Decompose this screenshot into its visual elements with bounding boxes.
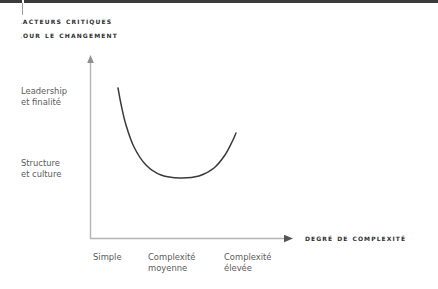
x-axis-tick-label-moyenne-line-2: moyenne bbox=[148, 263, 196, 274]
x-axis-tick-label-moyenne: Complexité moyenne bbox=[148, 252, 196, 275]
y-axis-label-structure-line-2: et culture bbox=[21, 169, 61, 180]
x-axis-arrowhead-icon bbox=[284, 235, 293, 242]
x-axis-tick-label-simple-line-1: Simple bbox=[93, 252, 122, 263]
x-axis-tick-label-simple: Simple bbox=[93, 252, 122, 263]
y-axis-label-structure-line-1: Structure bbox=[21, 158, 61, 169]
y-axis-label-structure: Structure et culture bbox=[21, 158, 61, 181]
y-axis-label-leadership-line-2: et finalité bbox=[21, 97, 67, 108]
figure-facteurs-critiques: Facteurs critiques pour le changement Le… bbox=[0, 0, 438, 289]
x-axis-tick-label-moyenne-line-1: Complexité bbox=[148, 252, 196, 263]
y-axis-arrowhead-icon bbox=[87, 55, 94, 63]
x-axis-title: Degré de complexité bbox=[305, 233, 406, 243]
plot-canvas bbox=[0, 0, 438, 289]
y-axis-label-leadership: Leadership et finalité bbox=[21, 86, 67, 109]
x-axis-tick-label-elevee: Complexité élevée bbox=[224, 252, 272, 275]
x-axis-tick-label-elevee-line-1: Complexité bbox=[224, 252, 272, 263]
y-axis-label-leadership-line-1: Leadership bbox=[21, 86, 67, 97]
complexity-curve bbox=[118, 88, 236, 178]
x-axis-tick-label-elevee-line-2: élevée bbox=[224, 263, 272, 274]
